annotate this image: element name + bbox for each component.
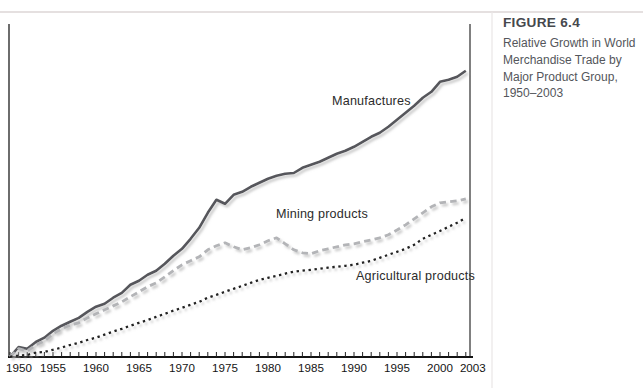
x-tick-label-1955: 1955 xyxy=(40,361,66,374)
figure-caption-block: FIGURE 6.4 Relative Growth in World Merc… xyxy=(503,15,643,102)
figure-label: FIGURE 6.4 xyxy=(503,15,643,30)
agricultural-products-line xyxy=(10,218,466,357)
agricultural-products-label: Agricultural products xyxy=(356,269,475,283)
figure-6-4: 1950195519601965197019751980198519901995… xyxy=(0,0,643,388)
x-tick-label-1995: 1995 xyxy=(384,361,410,374)
x-tick-label-1975: 1975 xyxy=(212,361,238,374)
x-tick-label-1970: 1970 xyxy=(169,361,195,374)
mining-products-label: Mining products xyxy=(276,207,368,221)
figure-caption: Relative Growth in World Merchandise Tra… xyxy=(503,35,643,102)
x-axis-tick-labels: 1950195519601965197019751980198519901995… xyxy=(6,361,486,374)
manufactures-line xyxy=(10,71,466,357)
manufactures-label: Manufactures xyxy=(332,94,411,108)
x-tick-label-2000: 2000 xyxy=(427,361,453,374)
x-tick-label-1965: 1965 xyxy=(126,361,152,374)
x-tick-label-1985: 1985 xyxy=(298,361,324,374)
x-tick-label-1990: 1990 xyxy=(341,361,367,374)
x-tick-label-1950: 1950 xyxy=(6,361,32,374)
x-tick-label-2003: 2003 xyxy=(460,361,486,374)
x-tick-label-1980: 1980 xyxy=(255,361,281,374)
series-lines xyxy=(10,71,466,357)
x-tick-label-1960: 1960 xyxy=(83,361,109,374)
